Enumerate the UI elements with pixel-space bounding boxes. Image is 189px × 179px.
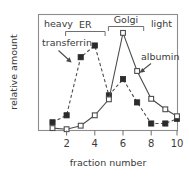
er-label: ER: [79, 19, 92, 30]
er-bracket: [66, 32, 106, 37]
heavy-label: heavy: [44, 18, 73, 29]
x-tick-label: 2: [63, 138, 69, 149]
transferrin-label: transferrin: [42, 37, 92, 48]
x-tick-label: 10: [171, 138, 184, 149]
x-axis-ticks: [67, 131, 177, 136]
plot-frame: [39, 15, 178, 131]
golgi-bracket: [108, 27, 143, 32]
x-tick-label: 8: [148, 138, 154, 149]
chart-svg: heavy light ER Golgi: [0, 0, 189, 179]
x-axis-label: fraction number: [70, 157, 147, 168]
fractionation-chart-figure: heavy light ER Golgi: [0, 0, 189, 179]
x-axis-tick-labels: 2 4 6 8 10: [63, 138, 183, 149]
x-tick-label: 4: [92, 138, 98, 149]
light-label: light: [151, 18, 172, 29]
x-tick-label: 6: [120, 138, 126, 149]
albumin-label: albumin: [141, 51, 179, 62]
golgi-label: Golgi: [114, 14, 138, 25]
y-axis-label: relative amount: [8, 34, 19, 110]
